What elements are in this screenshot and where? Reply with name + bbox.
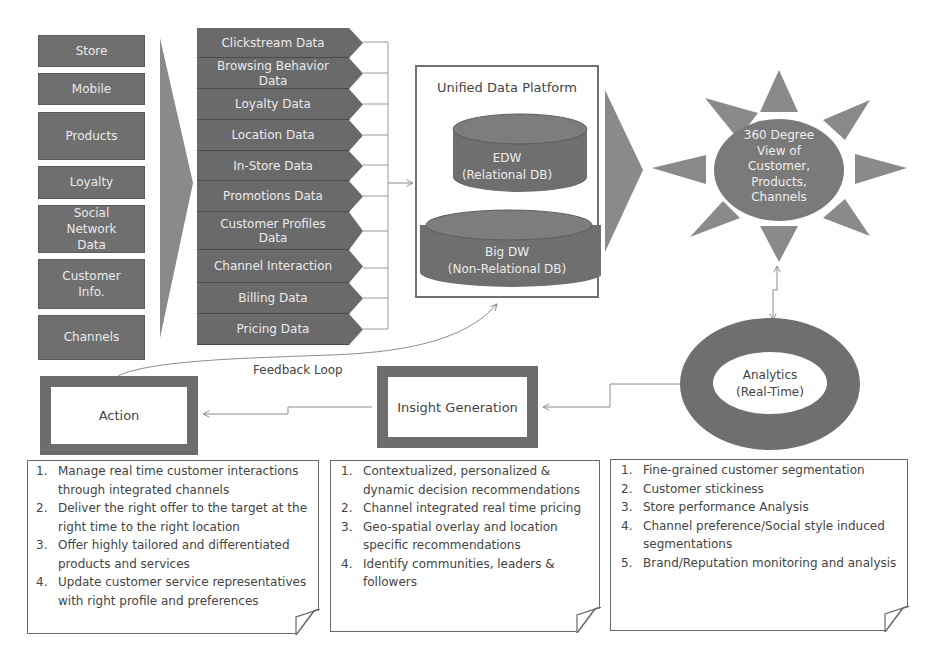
data-browsing-behavior: Browsing Behavior Data [197,58,363,89]
analytics-notes-list: 1.Fine-grained customer segmentation 2.C… [621,461,903,572]
list-item: 1.Manage real time customer interactions… [36,462,314,499]
feedback-loop-label: Feedback Loop [253,363,343,377]
source-store: Store [38,35,145,67]
data-billing: Billing Data [197,283,363,314]
action-notes: 1.Manage real time customer interactions… [27,460,319,634]
source-mobile: Mobile [38,73,145,105]
data-in-store: In-Store Data [197,151,363,181]
edw-label: EDW (Relational DB) [417,150,597,185]
data-bracket [363,42,388,329]
bigdw-label: Big DW (Non-Relational DB) [417,244,597,279]
funnel-arrow-icon [160,38,193,338]
data-location: Location Data [197,120,363,151]
source-products: Products [38,112,145,160]
list-item: 4.Identify communities, leaders & follow… [341,555,595,592]
data-pricing: Pricing Data [197,314,363,345]
list-item: 2.Deliver the right offer to the target … [36,499,314,536]
source-social-network: Social Network Data [38,205,145,253]
data-promotions: Promotions Data [197,181,363,212]
source-loyalty: Loyalty [38,166,145,199]
analytics-label: Analytics (Real-Time) [715,367,825,401]
data-customer-profiles: Customer Profiles Data [197,212,363,250]
insight-notes: 1.Contextualized, personalized & dynamic… [330,460,600,632]
page-fold-icon [883,606,909,632]
list-item: 3.Offer highly tailored and differentiat… [36,536,314,573]
data-loyalty: Loyalty Data [197,89,363,120]
source-customer-info: Customer Info. [38,259,145,309]
data-clickstream: Clickstream Data [197,28,363,58]
page-fold-icon [575,607,601,633]
insight-generation-box: Insight Generation [377,366,538,448]
list-item: 2.Channel integrated real time pricing [341,499,595,518]
list-item: 1.Contextualized, personalized & dynamic… [341,462,595,499]
unified-data-platform: Unified Data Platform EDW (Relational DB… [415,65,599,298]
page-fold-icon [294,609,320,635]
connector-analytics-insight [543,384,680,407]
action-notes-list: 1.Manage real time customer interactions… [36,462,314,610]
list-item: 4.Update customer service representative… [36,573,314,610]
insight-notes-list: 1.Contextualized, personalized & dynamic… [341,462,595,592]
list-item: 5.Brand/Reputation monitoring and analys… [621,554,903,573]
view360-label: 360 Degree View of Customer, Products, C… [729,128,829,206]
analytics-notes: 1.Fine-grained customer segmentation 2.C… [610,459,908,631]
action-box: Action [40,376,198,455]
list-item: 4.Channel preference/Social style induce… [621,517,903,554]
list-item: 1.Fine-grained customer segmentation [621,461,903,480]
connector-360-analytics [773,266,777,320]
data-channel-interaction: Channel Interaction [197,250,363,283]
source-channels: Channels [38,315,145,360]
connector-insight-action [203,407,372,414]
list-item: 3.Geo-spatial overlay and location speci… [341,518,595,555]
platform-to-360-arrow-icon [605,90,643,252]
list-item: 2.Customer stickiness [621,480,903,499]
list-item: 3.Store performance Analysis [621,498,903,517]
